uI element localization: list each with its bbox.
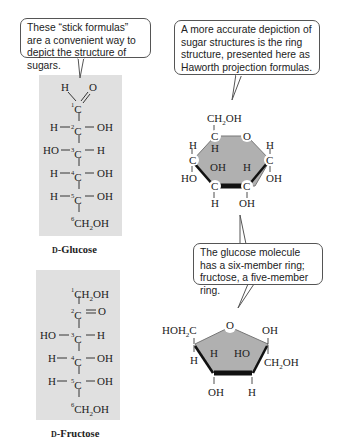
- glucose-ring-c4: C: [189, 155, 196, 166]
- glucose-c5-left: H: [50, 191, 58, 202]
- fructose-c2: 2C: [71, 306, 82, 321]
- callout-ring-structure: A more accurate depiction of sugar struc…: [174, 20, 320, 75]
- fructose-c5-left: H: [48, 376, 56, 387]
- glucose-ring-o: O: [243, 131, 251, 142]
- fructose-c5-right: OH: [97, 376, 113, 387]
- fructose-label: D-Fructose: [51, 428, 99, 439]
- fructose-ring-o: O: [226, 320, 234, 331]
- fructose-ring-hoh2c: HOH2C: [162, 325, 197, 341]
- fructose-c1: 1CH2OH: [71, 285, 109, 305]
- glucose-c3: 3C: [71, 145, 82, 160]
- fructose-ring-h-bottom: H: [248, 387, 256, 398]
- glucose-ring-c4-h: H: [189, 140, 197, 151]
- glucose-ring-c3-h: H: [211, 198, 219, 209]
- fructose-ring-ho-inner: HO: [234, 348, 250, 359]
- fructose-c3-left: HO: [40, 330, 56, 341]
- fructose-c2-right: O: [98, 306, 106, 317]
- glucose-ring-c5-h: H: [211, 143, 219, 154]
- glucose-ring-ch2oh: CH2OH: [207, 113, 242, 129]
- glucose-c6: 6CH2OH: [71, 214, 109, 234]
- fructose-ring-h-left: H: [190, 355, 198, 366]
- glucose-ring-c5: C: [211, 131, 218, 142]
- glucose-c5: 5C: [71, 191, 82, 206]
- glucose-ring-c3: C: [211, 181, 218, 192]
- glucose-c1-o: O: [89, 82, 97, 93]
- fructose-c5: 5C: [71, 376, 82, 391]
- fructose-c4: 4C: [71, 353, 82, 368]
- fructose-ring-ch2oh: CH2OH: [264, 357, 299, 373]
- glucose-c4-left: H: [50, 168, 58, 179]
- glucose-c2-left: H: [50, 122, 58, 133]
- fructose-ring-oh-bottom: OH: [208, 387, 224, 398]
- glucose-ring-c2-oh: OH: [239, 198, 255, 209]
- fructose-c4-left: H: [48, 353, 56, 364]
- glucose-label: D-Glucose: [52, 244, 97, 255]
- glucose-c3-right: H: [97, 145, 105, 156]
- glucose-c5-right: OH: [97, 191, 113, 202]
- glucose-ring-c2: C: [243, 181, 250, 192]
- glucose-c2: 2C: [71, 122, 82, 137]
- fructose-ring-oh-top: OH: [262, 325, 278, 336]
- fructose-c3-right: H: [97, 330, 105, 341]
- glucose-ring-c1-oh: OH: [266, 173, 282, 184]
- glucose-ring-c1-h: H: [266, 140, 274, 151]
- glucose-ring-c2-h: H: [243, 162, 251, 173]
- callout-stick-formulas: These “stick formulas” are a convenient …: [20, 18, 151, 58]
- glucose-c4-right: OH: [97, 168, 113, 179]
- glucose-ring-c3-oh: OH: [210, 162, 226, 173]
- glucose-c1-h: H: [61, 82, 69, 93]
- fructose-c3: 3C: [71, 330, 82, 345]
- glucose-ring-c1: C: [266, 155, 273, 166]
- fructose-ring-h-inner: H: [210, 348, 218, 359]
- glucose-c3-left: HO: [43, 145, 59, 156]
- glucose-c2-right: OH: [97, 122, 113, 133]
- glucose-ring-c4-ho: HO: [181, 173, 197, 184]
- glucose-c1: 1C: [71, 100, 82, 115]
- fructose-c6: 6CH2OH: [71, 400, 109, 420]
- glucose-c4: 4C: [71, 168, 82, 183]
- callout-ring-members: The glucose molecule has a six-member ri…: [193, 243, 323, 285]
- fructose-c4-right: OH: [97, 353, 113, 364]
